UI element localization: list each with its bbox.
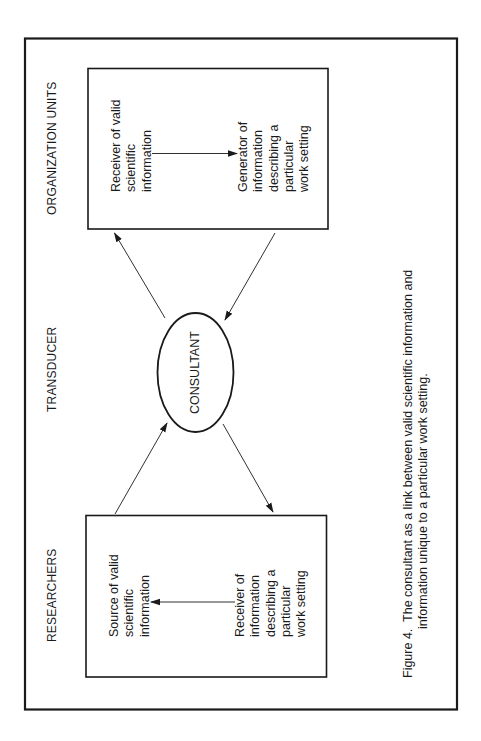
researchers-receiver-line-5: work setting <box>294 570 309 637</box>
caption-line-1: Figure 4. The consultant as a link betwe… <box>401 270 416 678</box>
consultant-label: CONSULTANT <box>189 331 202 414</box>
researchers-receiver-text: Receiver of information describing a par… <box>233 570 309 637</box>
org-receiver-line-1: Receiver of valid <box>109 100 124 192</box>
org-generator-line-4: particular <box>282 122 297 192</box>
researchers-source-line-1: Source of valid <box>107 554 122 637</box>
section-label-researchers: RESEARCHERS <box>46 548 58 642</box>
caption-line-2: information unique to a particular work … <box>416 270 431 678</box>
org-to-consultant-arrow <box>225 233 275 320</box>
researchers-receiver-line-4: particular <box>279 570 294 637</box>
researchers-receiver-line-2: information <box>248 570 263 637</box>
org-generator-line-5: work setting <box>297 122 312 192</box>
researchers-source-line-3: information <box>138 554 153 637</box>
org-receiver-text: Receiver of valid scientific information <box>109 100 155 192</box>
consultant-to-researchers-arrow <box>223 424 273 512</box>
researchers-to-consultant-arrow <box>115 423 167 514</box>
researchers-receiver-line-3: describing a <box>264 570 279 637</box>
org-generator-text: Generator of information describing a pa… <box>236 122 312 192</box>
section-label-transducer: TRANSDUCER <box>46 327 58 412</box>
figure-caption: Figure 4. The consultant as a link betwe… <box>401 270 431 678</box>
consultant-to-org-arrow <box>115 233 166 318</box>
researchers-source-text: Source of valid scientific information <box>107 554 153 637</box>
org-receiver-line-3: information <box>140 100 155 192</box>
org-generator-line-3: describing a <box>267 122 282 192</box>
org-receiver-line-2: scientific <box>124 100 139 192</box>
researchers-source-line-2: scientific <box>122 554 137 637</box>
org-generator-line-2: information <box>251 122 266 192</box>
org-generator-line-1: Generator of <box>236 122 251 192</box>
researchers-receiver-line-1: Receiver of <box>233 570 248 637</box>
section-label-organization-units: ORGANIZATION UNITS <box>46 82 58 215</box>
